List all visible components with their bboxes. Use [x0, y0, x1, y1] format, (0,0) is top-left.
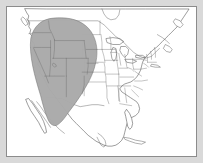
- nova-scotia: [163, 44, 172, 52]
- state-line-nc-sc: [134, 86, 143, 90]
- state-line-va-nc: [135, 80, 148, 81]
- state-line-vt-nh: [150, 51, 151, 59]
- long-island: [150, 64, 160, 67]
- vancouver-island: [21, 17, 28, 26]
- map-canvas: [7, 7, 196, 156]
- state-line-sc-ga: [132, 90, 139, 97]
- state-line-nh-me: [154, 47, 155, 57]
- range-map-figure: [0, 0, 203, 163]
- cuba-island: [124, 137, 146, 144]
- map-frame: [6, 6, 197, 157]
- state-line-nj-ny: [144, 63, 149, 67]
